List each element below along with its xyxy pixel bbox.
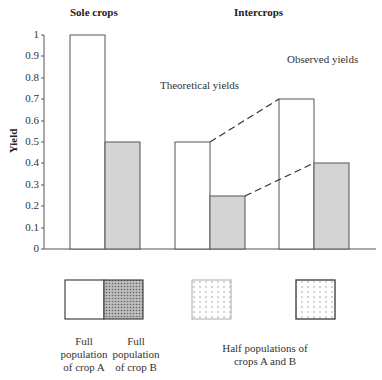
legend-swatch-b bbox=[104, 280, 143, 319]
legend-swatch-half-b bbox=[296, 280, 335, 319]
y-axis bbox=[41, 35, 44, 249]
legend-line: of crop B bbox=[106, 361, 166, 374]
legend-label-half: Half populations of crops A and B bbox=[210, 342, 320, 368]
legend-line: of crop A bbox=[54, 361, 114, 374]
bar-observed-a bbox=[279, 99, 314, 249]
legend-label-crop-a: Full population of crop A bbox=[54, 335, 114, 374]
legend-swatch-a bbox=[65, 280, 104, 319]
bar-theoretical-a bbox=[175, 142, 210, 249]
dashed-line-a bbox=[210, 99, 279, 142]
legend-line: population bbox=[54, 348, 114, 361]
legend-line: crops A and B bbox=[210, 355, 320, 368]
chart-canvas bbox=[0, 0, 382, 380]
legend-line: Full bbox=[106, 335, 166, 348]
bar-theoretical-b bbox=[210, 196, 245, 249]
legend-line: population bbox=[106, 348, 166, 361]
legend-line: Half populations of bbox=[210, 342, 320, 355]
bar-sole-a bbox=[70, 35, 105, 249]
bar-observed-b bbox=[314, 163, 349, 249]
bar-sole-b bbox=[105, 142, 140, 249]
legend-line: Full bbox=[54, 335, 114, 348]
legend-swatch-half-a bbox=[192, 280, 231, 319]
legend-label-crop-b: Full population of crop B bbox=[106, 335, 166, 374]
